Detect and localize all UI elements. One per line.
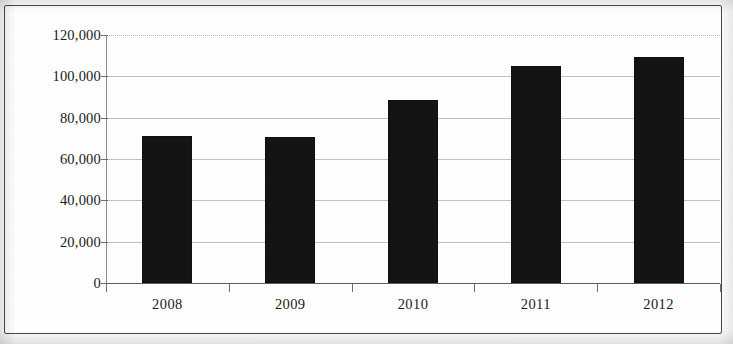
- y-axis-tick-label: 80,000: [9, 110, 101, 125]
- x-axis-tick-label: 2012: [643, 297, 674, 312]
- plot-area: [106, 35, 720, 283]
- y-axis-tick-100000: [101, 76, 108, 77]
- y-axis-tick-0: [101, 283, 108, 284]
- gridline-120000: [106, 35, 720, 36]
- y-axis-tick-label: 40,000: [9, 193, 101, 208]
- y-axis-tick-80000: [101, 118, 108, 119]
- x-axis-tick: [597, 284, 598, 292]
- y-axis-tick-label: 100,000: [9, 69, 101, 84]
- x-axis-tick: [106, 284, 107, 292]
- x-axis-tick-label: 2009: [275, 297, 306, 312]
- chart-page: 020,00040,00060,00080,000100,000120,000 …: [0, 0, 733, 344]
- bar-2009: [265, 137, 315, 283]
- bar-2008: [142, 136, 192, 283]
- gridline-100000: [106, 76, 720, 77]
- x-axis-tick-label: 2011: [521, 297, 551, 312]
- x-axis-tick: [229, 284, 230, 292]
- y-axis-tick-20000: [101, 242, 108, 243]
- chart-frame: 020,00040,00060,00080,000100,000120,000 …: [4, 5, 722, 334]
- bar-2012: [634, 57, 684, 283]
- x-axis-tick: [474, 284, 475, 292]
- y-axis-tick-label: 60,000: [9, 152, 101, 167]
- x-axis-tick-end: [720, 284, 721, 292]
- y-axis-labels: 020,00040,00060,00080,000100,000120,000: [5, 6, 101, 333]
- y-axis-tick-label: 0: [9, 276, 101, 291]
- y-axis-tick-120000: [101, 35, 108, 36]
- x-axis-tick-label: 2010: [398, 297, 429, 312]
- x-axis-tick: [352, 284, 353, 292]
- bar-2010: [388, 100, 438, 283]
- y-axis-tick-label: 120,000: [9, 28, 101, 43]
- y-axis-tick-label: 20,000: [9, 234, 101, 249]
- y-axis-tick-40000: [101, 200, 108, 201]
- y-axis-tick-60000: [101, 159, 108, 160]
- x-axis-line: [106, 283, 720, 284]
- bar-2011: [511, 66, 561, 283]
- x-axis-tick-label: 2008: [152, 297, 183, 312]
